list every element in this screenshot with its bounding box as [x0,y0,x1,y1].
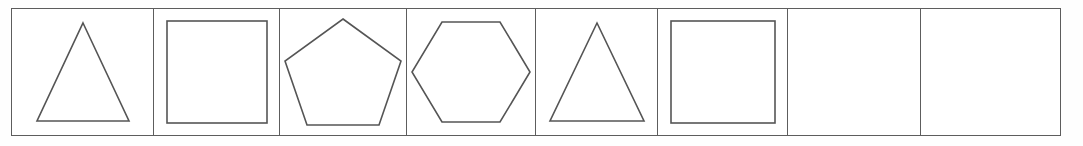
square-icon [154,9,279,135]
pattern-cell-6[interactable] [658,9,788,135]
pattern-cell-4[interactable] [407,9,536,135]
hexagon-icon [407,9,535,135]
empty-answer-area [921,9,1058,135]
triangle-icon [12,9,153,135]
worksheet-page [0,0,1083,146]
shape-pattern-grid [11,8,1061,136]
pattern-cell-3[interactable] [280,9,407,135]
pattern-cell-7-blank[interactable] [788,9,921,135]
pattern-cell-1[interactable] [12,9,154,135]
triangle-icon [536,9,657,135]
pattern-cell-5[interactable] [536,9,658,135]
pattern-cell-8-blank[interactable] [921,9,1058,135]
pentagon-icon [280,9,406,135]
pattern-cell-2[interactable] [154,9,280,135]
square-icon [658,9,787,135]
empty-answer-area [788,9,920,135]
